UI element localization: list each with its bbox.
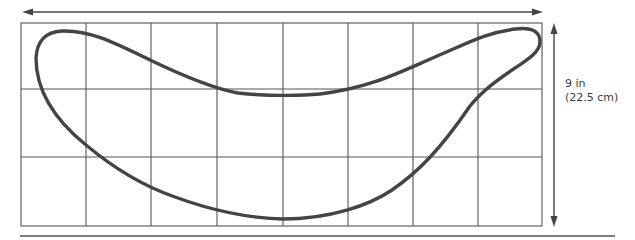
height-metric-label: (22.5 cm): [565, 91, 618, 105]
pattern-diagram: [0, 0, 635, 240]
pattern-outline: [36, 28, 540, 219]
height-dimension-label: 9 in (22.5 cm): [565, 77, 618, 105]
grid: [21, 23, 542, 226]
height-imperial-label: 9 in: [565, 77, 618, 91]
height-dimension-arrow: [551, 23, 558, 227]
width-dimension-arrow: [22, 9, 543, 16]
